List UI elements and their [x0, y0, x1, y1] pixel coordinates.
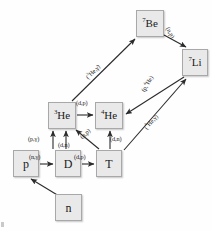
node-D-label: D	[64, 158, 73, 170]
node-Li7[interactable]: 7Li	[182, 49, 208, 76]
node-He3[interactable]: 3He	[48, 102, 76, 129]
node-He3-label: 3He	[54, 110, 70, 121]
edge-label-p-to-D: (n,γ)	[29, 153, 40, 160]
arrow-He3-to-Be7	[72, 39, 135, 101]
arrow-Li7-to-He4	[126, 77, 184, 114]
node-n-label: n	[66, 202, 72, 214]
edge-label-T-to-He4: (d,n)	[110, 135, 122, 142]
node-T-label: T	[105, 158, 112, 170]
node-Li7-label: 7Li	[188, 57, 201, 68]
node-He4-base: He	[104, 109, 117, 121]
node-Be7-base: Be	[146, 17, 158, 29]
reaction-network-diagram: 7Be 7Li 3He 4He p D T n (n,γ) (d,p) (p,γ…	[0, 0, 212, 231]
node-He4[interactable]: 4He	[95, 102, 123, 129]
node-Be7[interactable]: 7Be	[136, 10, 164, 37]
node-n[interactable]: n	[55, 194, 82, 221]
node-T[interactable]: T	[96, 150, 122, 177]
edge-label-p-to-He3: (p,γ)	[28, 135, 39, 142]
node-He4-label: 4He	[101, 110, 117, 121]
node-He3-base: He	[57, 109, 70, 121]
node-Be7-label: 7Be	[142, 18, 158, 29]
node-Li7-base: Li	[192, 56, 202, 68]
edge-label-He3-to-He4: (d,p)	[76, 99, 88, 106]
edge-label-D-to-T: (d,p)	[74, 153, 86, 160]
corner-artifact	[1, 222, 4, 227]
edge-label-D-to-He3: (d,n)	[58, 141, 70, 148]
